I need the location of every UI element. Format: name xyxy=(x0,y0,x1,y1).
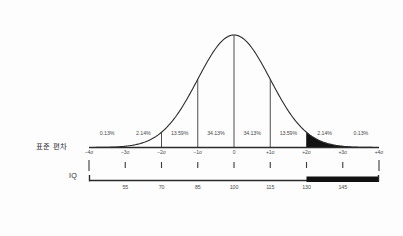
sd-axis-label: 표준 편차 xyxy=(36,143,68,150)
percent-label-6: 2.14% xyxy=(317,131,332,136)
percent-label-1: 2.14% xyxy=(136,131,151,136)
sigma-tick-label-6: +2σ xyxy=(302,150,311,155)
sigma-tick-label-0: −4σ xyxy=(85,150,94,155)
percent-label-5: 13.59% xyxy=(280,131,297,136)
sigma-tick-label-3: −1σ xyxy=(194,150,203,155)
iq-axis-label: IQ xyxy=(69,172,77,179)
sigma-tick-label-2: −2σ xyxy=(157,150,166,155)
sigma-tick-label-1: −3σ xyxy=(121,150,130,155)
percent-label-2: 13.59% xyxy=(171,131,188,136)
sigma-tick-label-8: +4σ xyxy=(375,150,384,155)
iq-tick-label-5: 130 xyxy=(302,185,311,190)
tick-mark-row xyxy=(89,160,379,171)
sigma-tick-label-7: +3σ xyxy=(339,150,348,155)
iq-tick-label-3: 100 xyxy=(230,185,239,190)
iq-shaded-bar xyxy=(307,177,380,183)
percent-label-0: 0.13% xyxy=(100,131,115,136)
percent-label-3: 34.13% xyxy=(207,131,224,136)
percent-label-7: 0.13% xyxy=(354,131,369,136)
iq-tick-label-0: 55 xyxy=(122,185,128,190)
percent-label-4: 34.13% xyxy=(243,131,260,136)
iq-tick-label-1: 70 xyxy=(159,185,165,190)
sigma-tick-label-5: +1σ xyxy=(266,150,275,155)
distribution-chart-svg xyxy=(0,0,403,236)
iq-tick-label-2: 85 xyxy=(195,185,201,190)
iq-tick-label-6: 145 xyxy=(338,185,347,190)
iq-tick-label-4: 115 xyxy=(266,185,274,190)
sigma-tick-label-4: 0 xyxy=(233,150,236,155)
normal-distribution-figure: 표준 편차 IQ 0.13%2.14%13.59%34.13%34.13%13.… xyxy=(0,0,403,236)
